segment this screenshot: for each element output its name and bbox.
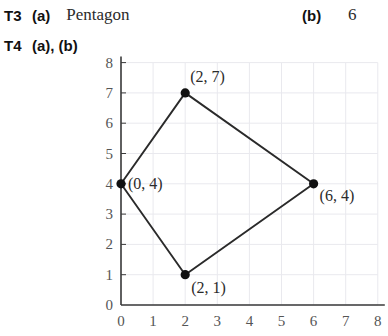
quadrilateral-shape (121, 93, 314, 275)
answer-row-t4: T4 (a), (b) (0, 32, 388, 58)
x-tick-label: 0 (117, 313, 125, 329)
part-label-t4-ab: (a), (b) (32, 37, 78, 54)
y-tick-label: 0 (106, 297, 114, 313)
x-tick-label: 8 (374, 313, 382, 329)
y-tick-label: 3 (106, 206, 114, 222)
data-point-label: (6, 4) (320, 187, 355, 205)
x-tick-label: 1 (149, 313, 157, 329)
shape-outline (121, 93, 314, 275)
x-tick-label: 5 (278, 313, 286, 329)
data-point-label: (2, 7) (190, 68, 225, 86)
y-tick-label: 5 (106, 146, 114, 162)
data-point-marker (116, 179, 125, 188)
part-label-t3-a: (a) (32, 7, 50, 24)
data-point-markers (116, 88, 318, 279)
answer-row-t3: T3 (a) Pentagon (b) 6 (0, 2, 388, 28)
grid-lines (121, 63, 378, 305)
data-point-marker (181, 270, 190, 279)
data-point-labels: (0, 4)(2, 7)(6, 4)(2, 1) (128, 68, 354, 297)
y-tick-label: 7 (106, 85, 114, 101)
axes (121, 57, 385, 305)
data-point-label: (2, 1) (191, 279, 226, 297)
y-tick-label: 2 (106, 236, 114, 252)
tick-labels: 012345678012345678 (106, 55, 382, 329)
data-point-marker (309, 179, 318, 188)
answer-value-t3-b: 6 (348, 2, 357, 28)
x-tick-label: 4 (246, 313, 254, 329)
data-point-marker (181, 88, 190, 97)
x-tick-label: 2 (181, 313, 189, 329)
y-tick-label: 6 (106, 115, 114, 131)
x-tick-label: 3 (214, 313, 222, 329)
x-tick-label: 6 (310, 313, 318, 329)
y-tick-label: 1 (106, 267, 114, 283)
answer-value-t3-a: Pentagon (66, 5, 129, 25)
y-tick-label: 4 (106, 176, 114, 192)
question-label-t4: T4 (4, 37, 22, 54)
x-tick-label: 7 (342, 313, 350, 329)
part-label-t3-b: (b) (302, 2, 321, 28)
data-point-label: (0, 4) (128, 175, 163, 193)
question-label-t3: T3 (4, 7, 22, 24)
